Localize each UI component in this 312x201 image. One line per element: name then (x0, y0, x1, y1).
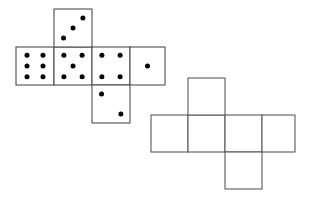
cube-nets-figure (0, 0, 312, 201)
pip-dot (61, 53, 66, 58)
figure-canvas (0, 0, 312, 201)
blank-bottom-face (225, 152, 262, 189)
four-face (92, 47, 130, 85)
blank-bottom-face-outline (225, 152, 262, 189)
blank-left-face (151, 115, 188, 152)
pip-dot (40, 74, 45, 79)
pip-dot (25, 74, 30, 79)
blank-top-face (188, 78, 225, 115)
pip-dot (99, 74, 104, 79)
pip-dot (71, 64, 76, 69)
pip-dot (61, 35, 66, 40)
pip-dot (118, 111, 123, 116)
blank-top-face-outline (188, 78, 225, 115)
pip-dot (40, 64, 45, 69)
four-face-outline (92, 47, 130, 85)
three-face (54, 9, 92, 47)
pip-dot (71, 26, 76, 31)
blank-middle-face-outline (188, 115, 225, 152)
pip-dot (40, 53, 45, 58)
pip-dot (80, 16, 85, 21)
six-face (16, 47, 54, 85)
pip-dot (25, 64, 30, 69)
blank-right-face (262, 115, 295, 152)
pip-dot (61, 74, 66, 79)
two-face (92, 85, 130, 123)
six-face-outline (16, 47, 54, 85)
pip-dot (80, 74, 85, 79)
dice-net-group (16, 9, 165, 123)
pip-dot (145, 64, 150, 69)
one-face (130, 47, 165, 85)
pip-dot (118, 53, 123, 58)
blank-right-face-outline (262, 115, 295, 152)
pip-dot (118, 74, 123, 79)
blank-left-face-outline (151, 115, 188, 152)
pip-dot (25, 53, 30, 58)
pip-dot (80, 53, 85, 58)
pip-dot (99, 92, 104, 97)
blank-center-face-outline (225, 115, 262, 152)
blank-net-group (151, 78, 295, 189)
two-face-outline (92, 85, 130, 123)
blank-middle-face (188, 115, 225, 152)
pip-dot (99, 53, 104, 58)
five-face (54, 47, 92, 85)
blank-center-face (225, 115, 262, 152)
